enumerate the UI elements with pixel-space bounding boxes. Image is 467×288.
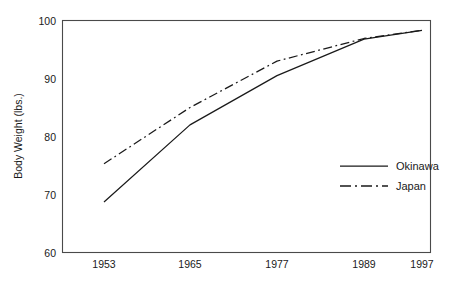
y-tick-label-60: 60	[44, 247, 56, 259]
x-tick-label-1977: 1977	[265, 258, 289, 270]
chart-canvas: 100 90 80 70 60 Body Weight (lbs.) 1953 …	[0, 0, 467, 288]
y-tick-label-80: 80	[44, 131, 56, 143]
line-chart: 100 90 80 70 60 Body Weight (lbs.) 1953 …	[0, 0, 467, 288]
y-tick-label-90: 90	[44, 73, 56, 85]
x-tick-label-1997: 1997	[410, 258, 434, 270]
legend-label-japan: Japan	[396, 180, 426, 192]
y-axis-title: Body Weight (lbs.)	[12, 93, 24, 179]
x-tick-label-1965: 1965	[178, 258, 202, 270]
chart-background	[0, 0, 467, 288]
legend-label-okinawa: Okinawa	[396, 160, 440, 172]
x-tick-label-1989: 1989	[352, 258, 376, 270]
x-tick-label-1953: 1953	[92, 258, 116, 270]
y-tick-label-100: 100	[38, 15, 56, 27]
y-tick-label-70: 70	[44, 189, 56, 201]
